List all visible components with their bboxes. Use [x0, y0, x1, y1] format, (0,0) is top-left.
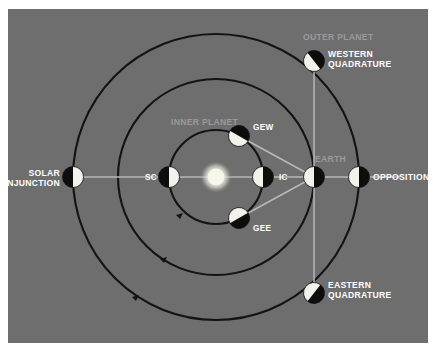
orbit-svg-container	[8, 9, 428, 343]
sun-core	[208, 169, 225, 186]
marker-earth	[304, 167, 325, 188]
marker-greatest-eastern-elongation	[225, 204, 254, 233]
marker-western-quadrature	[299, 46, 328, 75]
diagram-canvas: OUTER PLANET INNER PLANET EARTH SOLAR CO…	[0, 0, 433, 348]
marker-eastern-quadrature	[299, 278, 328, 307]
marker-solar-conjunction	[63, 167, 84, 188]
sightline-earth-gew	[239, 136, 314, 177]
marker-greatest-western-elongation	[225, 122, 254, 151]
diagram-panel: OUTER PLANET INNER PLANET EARTH SOLAR CO…	[8, 9, 428, 343]
marker-opposition	[349, 167, 370, 188]
marker-inferior-conjunction	[253, 167, 274, 188]
sightline-earth-gee	[239, 177, 314, 218]
marker-superior-conjunction	[159, 167, 180, 188]
orbit-direction-arrow-inner	[176, 213, 183, 219]
